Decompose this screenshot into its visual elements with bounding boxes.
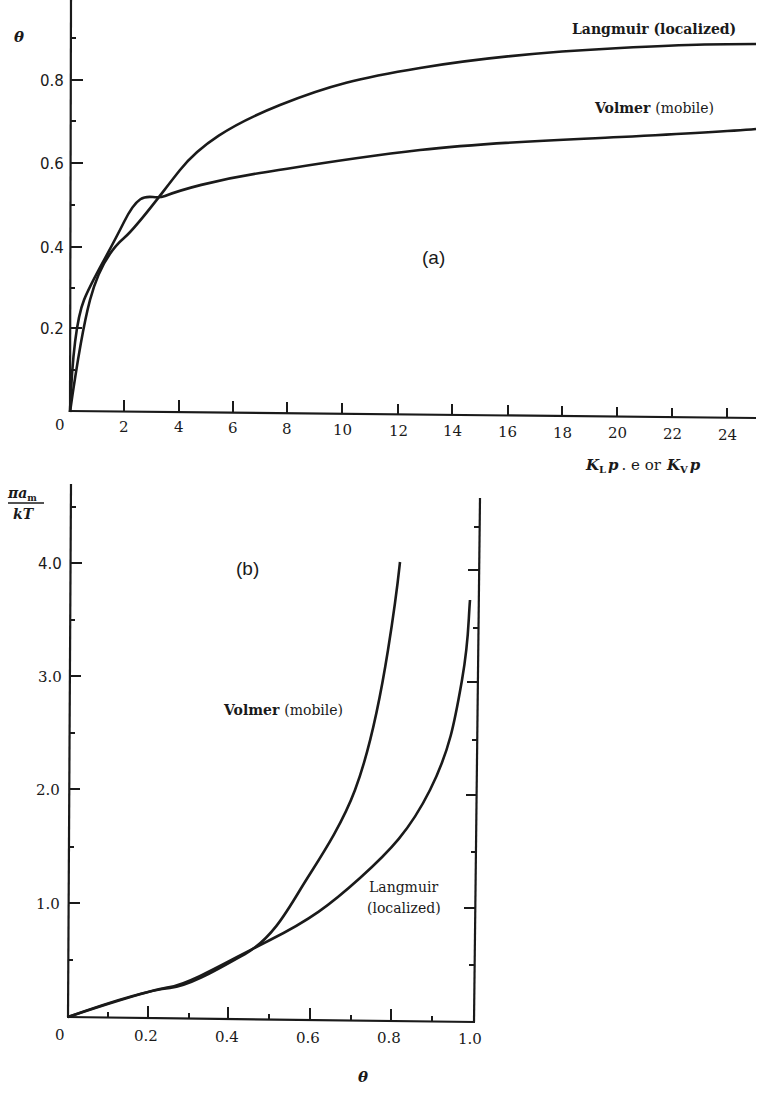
panel-b-y-axis-title: πam kT	[7, 485, 44, 522]
panel-b-langmuir-label: Langmuir	[369, 879, 438, 895]
svg-text:kT: kT	[13, 506, 35, 522]
panel-a-x-tick-labels: 0 2 4 6 8 10 12 14 16 18 20 22 24	[55, 416, 737, 444]
panel-a-y-tick-label: 0.2	[40, 320, 64, 338]
svg-text:6: 6	[228, 419, 238, 437]
svg-text:10: 10	[333, 421, 352, 439]
panel-a-y-ticks	[70, 38, 83, 370]
svg-text:0.4: 0.4	[215, 1028, 239, 1046]
svg-text:18: 18	[553, 424, 572, 442]
panel-b-x-axis-title: θ	[358, 1068, 368, 1086]
svg-text:16: 16	[498, 423, 517, 441]
svg-text:0: 0	[55, 416, 65, 434]
panel-a-volmer-label: Volmer (mobile)	[594, 100, 714, 116]
panel-a-y-tick-label: 0.8	[40, 72, 64, 90]
svg-text:12: 12	[389, 422, 408, 440]
svg-text:24: 24	[718, 426, 737, 444]
svg-text:8: 8	[282, 420, 292, 438]
svg-text:πam: πam	[7, 485, 37, 503]
panel-b-x-ticks	[108, 1006, 432, 1022]
svg-text:0: 0	[55, 1026, 65, 1044]
svg-text:4: 4	[174, 418, 184, 436]
panel-b-label: (b)	[236, 558, 259, 579]
svg-text:0.6: 0.6	[296, 1029, 320, 1047]
panel-b-y-tick-label: 3.0	[38, 668, 62, 686]
panel-b-langmuir-label-paren: (localized)	[367, 900, 441, 916]
panel-a-y-axis-title: θ	[14, 28, 24, 46]
svg-text:2: 2	[119, 418, 129, 436]
panel-b-y-axis	[68, 484, 71, 1017]
svg-text:0.2: 0.2	[134, 1027, 158, 1045]
panel-a-x-axis	[70, 411, 756, 418]
panel-a-langmuir-label: Langmuir (localized)	[572, 21, 736, 37]
panel-b-x-tick-labels: 0 0.2 0.4 0.6 0.8 1.0	[55, 1026, 482, 1048]
panel-b-y-tick-label: 2.0	[36, 781, 60, 799]
svg-text:20: 20	[608, 424, 627, 442]
panel-b-right-axis	[474, 498, 480, 1022]
svg-text:22: 22	[663, 425, 682, 443]
panel-a: 0.8 0.6 0.4 0.2 θ 0 2 4 6 8 10	[14, 0, 756, 475]
figure: 0.8 0.6 0.4 0.2 θ 0 2 4 6 8 10	[0, 0, 760, 1097]
panel-b-y-tick-label: 4.0	[38, 555, 62, 573]
svg-text:0.8: 0.8	[377, 1029, 401, 1047]
panel-a-y-tick-label: 0.6	[40, 155, 64, 173]
svg-text:14: 14	[443, 422, 462, 440]
panel-a-x-axis-title: KLp. e orKVp	[585, 456, 701, 475]
svg-text:1.0: 1.0	[458, 1030, 482, 1048]
panel-b-volmer-curve	[68, 562, 400, 1017]
panel-b-y-tick-label: 1.0	[36, 895, 60, 913]
panel-b: 4.0 3.0 2.0 1.0 πam kT 0 0.2	[7, 484, 482, 1086]
panel-b-volmer-label: Volmer (mobile)	[223, 702, 343, 718]
panel-b-langmuir-curve	[68, 600, 470, 1017]
panel-a-label: (a)	[422, 247, 445, 268]
panel-a-y-tick-label: 0.4	[40, 239, 64, 257]
panel-a-volmer-curve	[70, 129, 756, 412]
panel-b-x-axis	[67, 1017, 475, 1022]
